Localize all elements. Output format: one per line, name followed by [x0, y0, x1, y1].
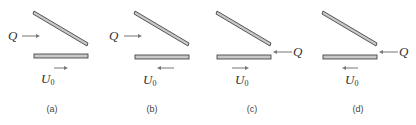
inclined-plate [322, 11, 377, 46]
caption-d: (d) [306, 104, 410, 114]
q-label: Q [8, 28, 17, 44]
q-label: Q [399, 44, 408, 60]
moving-plate [323, 55, 377, 59]
panel-a: Q U0 (a) [0, 0, 104, 125]
u-label: U0 [345, 72, 358, 88]
inclined-plate [33, 11, 88, 46]
inclined-plate [134, 11, 189, 46]
u-label: U0 [235, 72, 248, 88]
moving-plate [34, 54, 88, 58]
moving-plate [217, 55, 271, 59]
caption-c: (c) [200, 104, 304, 114]
panel-d: Q U0 (d) [306, 0, 410, 125]
panel-b: Q U0 (b) [100, 0, 204, 125]
moving-plate [135, 55, 189, 59]
inclined-plate [216, 11, 271, 46]
caption-a: (a) [0, 104, 104, 114]
q-label: Q [293, 44, 302, 60]
u-label: U0 [41, 71, 54, 87]
plates-diagram-c [200, 0, 304, 100]
caption-b: (b) [100, 104, 204, 114]
u-label: U0 [143, 72, 156, 88]
q-label: Q [109, 28, 118, 44]
panel-c: Q U0 (c) [200, 0, 304, 125]
